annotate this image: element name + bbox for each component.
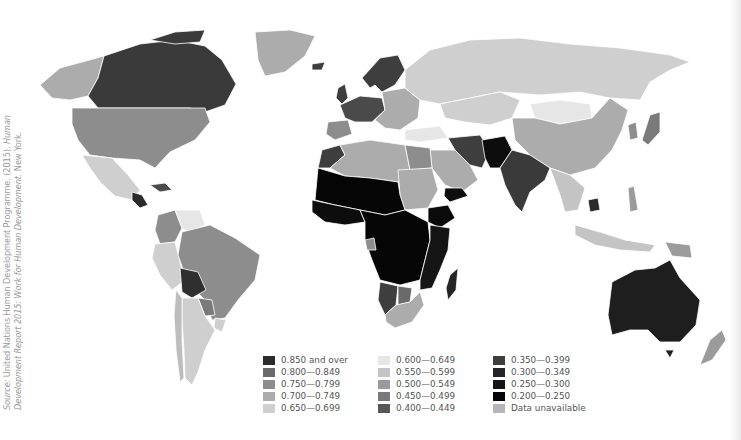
page-edge-shadow: [729, 0, 741, 440]
legend-item: 0.550—0.599: [378, 366, 493, 378]
region-new-zealand: [700, 330, 726, 365]
legend-label: Data unavailable: [511, 403, 586, 413]
region-egypt: [405, 145, 432, 170]
legend-swatch: [378, 404, 390, 413]
legend-item: 0.800—0.849: [263, 366, 378, 378]
source-line1: United Nations Human Development Program…: [2, 144, 12, 380]
legend-label: 0.600—0.649: [396, 355, 455, 365]
legend-label: 0.550—0.599: [396, 367, 455, 377]
legend-swatch: [378, 380, 390, 389]
legend-column-1: 0.850 and over 0.800—0.849 0.750—0.799 0…: [263, 354, 378, 414]
legend-label: 0.350—0.399: [511, 355, 570, 365]
region-turkey: [405, 126, 448, 142]
source-line2: New York.: [13, 132, 23, 174]
region-caribbean: [150, 183, 172, 192]
legend-swatch: [493, 380, 505, 389]
legend-label: 0.250—0.300: [511, 379, 570, 389]
map-legend: 0.850 and over 0.800—0.849 0.750—0.799 0…: [263, 354, 608, 414]
source-prefix: Source:: [2, 380, 12, 410]
region-indonesia: [575, 225, 655, 252]
legend-item: 0.700—0.749: [263, 390, 378, 402]
legend-label: 0.200—0.250: [511, 391, 570, 401]
legend-item: 0.850 and over: [263, 354, 378, 366]
region-uruguay: [214, 318, 226, 332]
legend-swatch: [493, 368, 505, 377]
legend-swatch: [263, 368, 275, 377]
legend-item: 0.200—0.250: [493, 390, 608, 402]
legend-swatch: [263, 404, 275, 413]
region-scandinavia: [362, 55, 405, 92]
legend-label: 0.700—0.749: [281, 391, 340, 401]
region-sudan: [398, 168, 438, 210]
legend-label: 0.450—0.499: [396, 391, 455, 401]
legend-label: 0.650—0.699: [281, 403, 340, 413]
region-australia: [608, 260, 700, 342]
legend-swatch: [263, 380, 275, 389]
region-mexico: [82, 155, 140, 200]
legend-item: 0.500—0.549: [378, 378, 493, 390]
legend-swatch: [378, 392, 390, 401]
legend-label: 0.800—0.849: [281, 367, 340, 377]
legend-column-3: 0.350—0.399 0.300—0.349 0.250—0.300 0.20…: [493, 354, 608, 414]
legend-swatch: [378, 368, 390, 377]
legend-label: 0.300—0.349: [511, 367, 570, 377]
legend-label: 0.500—0.549: [396, 379, 455, 389]
legend-item: 0.600—0.649: [378, 354, 493, 366]
legend-item: 0.300—0.349: [493, 366, 608, 378]
legend-swatch: [493, 404, 505, 413]
legend-item: 0.750—0.799: [263, 378, 378, 390]
legend-label: 0.750—0.799: [281, 379, 340, 389]
region-ethiopia: [428, 205, 455, 228]
legend-swatch: [378, 356, 390, 365]
legend-label: 0.400—0.449: [396, 403, 455, 413]
legend-item: 0.350—0.399: [493, 354, 608, 366]
legend-column-2: 0.600—0.649 0.550—0.599 0.500—0.549 0.45…: [378, 354, 493, 414]
source-citation: Source: United Nations Human Development…: [2, 90, 32, 410]
region-japan: [642, 112, 660, 145]
legend-swatch: [493, 356, 505, 365]
region-iceland: [312, 62, 325, 70]
legend-item: 0.650—0.699: [263, 402, 378, 414]
region-philippines: [628, 186, 638, 212]
legend-label: 0.850 and over: [281, 355, 348, 365]
region-iberia: [326, 120, 352, 140]
region-gabon: [365, 238, 376, 250]
legend-swatch: [263, 356, 275, 365]
legend-item: 0.250—0.300: [493, 378, 608, 390]
region-russia: [405, 38, 690, 104]
legend-swatch: [493, 392, 505, 401]
legend-swatch: [263, 392, 275, 401]
legend-item: Data unavailable: [493, 402, 608, 414]
region-uk: [336, 84, 348, 104]
region-greenland: [255, 30, 315, 76]
source-line2-italic: Development Report 2015: Work for Human …: [13, 174, 23, 410]
region-central-america: [132, 192, 148, 208]
region-cambodia: [588, 198, 600, 212]
region-tasmania: [665, 350, 674, 358]
legend-item: 0.450—0.499: [378, 390, 493, 402]
source-line1-italic: Human: [2, 115, 12, 144]
region-korea: [628, 122, 638, 140]
region-se-asia: [550, 168, 585, 212]
legend-item: 0.400—0.449: [378, 402, 493, 414]
region-madagascar: [446, 268, 458, 300]
region-png: [665, 242, 692, 258]
region-canada: [88, 40, 236, 112]
